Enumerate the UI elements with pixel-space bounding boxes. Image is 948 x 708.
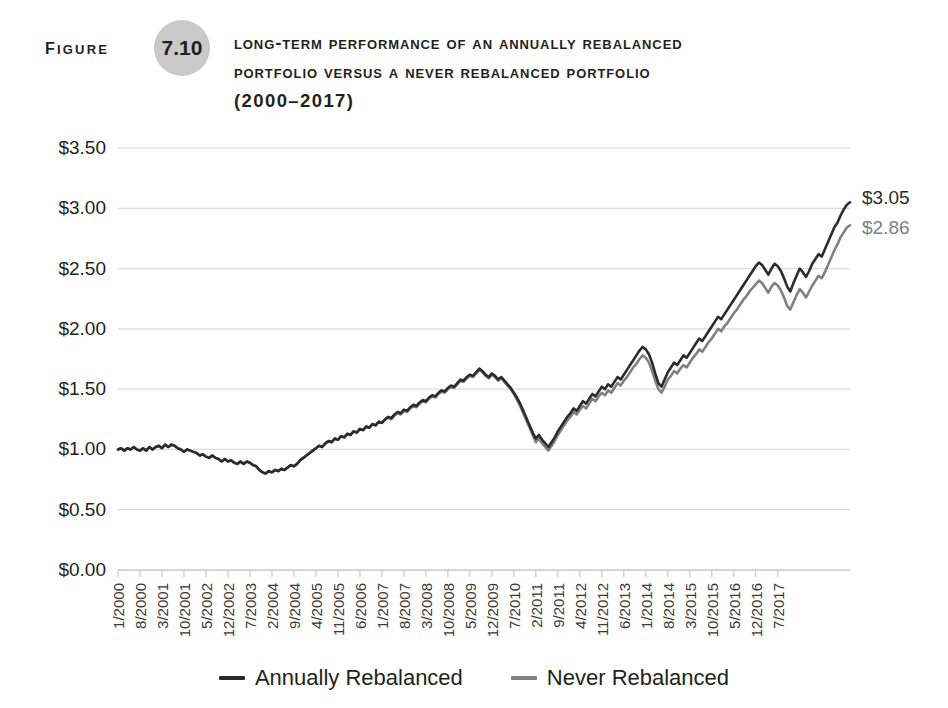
x-axis-tick-label: 10/2008	[440, 583, 457, 637]
chart-legend: Annually Rebalanced Never Rebalanced	[0, 655, 948, 701]
x-axis-tick-label: 12/2002	[220, 583, 237, 637]
y-axis-tick-label: $1.00	[58, 438, 106, 459]
x-axis-tick-label: 3/2008	[418, 583, 435, 629]
x-axis-tick-label: 8/2000	[132, 583, 149, 629]
figure-label: Figure	[45, 33, 109, 60]
y-axis-tick-label: $0.00	[58, 559, 106, 580]
y-axis-tick-label: $2.00	[58, 318, 106, 339]
x-axis-tick-label: 5/2002	[198, 583, 215, 629]
y-axis-tick-labels: $0.00$0.50$1.00$1.50$2.00$2.50$3.00$3.50	[58, 137, 106, 580]
data-series-group	[118, 202, 850, 473]
legend-label-annually-rebalanced: Annually Rebalanced	[255, 665, 463, 691]
x-axis-tick-label: 8/2014	[660, 583, 677, 629]
y-axis-tick-label: $2.50	[58, 258, 106, 279]
figure-title-line-2: Portfolio versus a Never Rebalanced Port…	[234, 57, 934, 86]
x-axis-tick-label: 10/2015	[704, 583, 721, 637]
legend-item-annually-rebalanced: Annually Rebalanced	[219, 665, 463, 691]
figure-title-line-3: (2000–2017)	[234, 86, 934, 115]
x-axis-tick-label: 9/2011	[550, 583, 567, 628]
y-axis-tick-label: $3.50	[58, 137, 106, 158]
endpoint-value-labels: $3.05$2.86	[862, 187, 910, 238]
figure-title-line-1: Long-Term Performance of an Annually Reb…	[234, 28, 934, 57]
x-axis-tick-labels: 1/20008/20003/200110/20015/200212/20027/…	[110, 583, 787, 637]
x-axis-tick-label: 2/2004	[264, 583, 281, 629]
x-axis-tick-label: 11/2005	[330, 583, 347, 636]
legend-item-never-rebalanced: Never Rebalanced	[511, 665, 729, 691]
x-axis-tick-label: 5/2009	[462, 583, 479, 629]
x-axis-tick-label: 1/2000	[110, 583, 127, 629]
x-axis-tick-label: 7/2003	[242, 583, 259, 629]
x-axis-tick-label: 6/2013	[616, 583, 633, 629]
x-axis-tick-label: 4/2005	[308, 583, 325, 629]
series-line-annually-rebalanced	[118, 202, 850, 473]
legend-swatch-annually-rebalanced	[219, 676, 245, 680]
y-axis-tick-label: $3.00	[58, 197, 106, 218]
x-axis-tick-label: 8/2007	[396, 583, 413, 629]
x-axis-tick-label: 1/2007	[374, 583, 391, 629]
x-axis-tick-label: 1/2014	[638, 583, 655, 629]
y-axis-tick-label: $1.50	[58, 378, 106, 399]
x-axis-tick-label: 2/2011	[528, 583, 545, 628]
chart-plot-area: $0.00$0.50$1.00$1.50$2.00$2.50$3.00$3.50…	[0, 128, 948, 648]
y-axis-tick-label: $0.50	[58, 499, 106, 520]
x-axis-tick-label: 9/2004	[286, 583, 303, 629]
figure-number: 7.10	[154, 20, 210, 76]
x-axis-tick-label: 4/2012	[572, 583, 589, 629]
x-axis-tick-label: 5/2016	[726, 583, 743, 629]
legend-label-never-rebalanced: Never Rebalanced	[547, 665, 729, 691]
line-chart: $0.00$0.50$1.00$1.50$2.00$2.50$3.00$3.50…	[0, 128, 948, 648]
x-axis-tick-label: 12/2009	[484, 583, 501, 637]
x-axis-tick-label: 10/2001	[176, 583, 193, 637]
x-axis-tick-label: 6/2006	[352, 583, 369, 629]
figure-title: Long-Term Performance of an Annually Reb…	[234, 28, 934, 115]
endpoint-label-never-rebalanced: $2.86	[862, 217, 910, 238]
x-axis-tick-label: 11/2012	[594, 583, 611, 636]
x-axis-tick-label: 12/2016	[748, 583, 765, 637]
legend-swatch-never-rebalanced	[511, 676, 537, 680]
x-axis-tick-label: 3/2001	[154, 583, 171, 629]
x-axis-tick-label: 3/2015	[682, 583, 699, 629]
gridlines	[118, 148, 850, 570]
endpoint-label-annually-rebalanced: $3.05	[862, 187, 910, 208]
series-line-never-rebalanced	[118, 225, 850, 473]
figure-header: Figure 7.10 Long-Term Performance of an …	[0, 0, 948, 128]
x-axis-tick-label: 7/2017	[770, 583, 787, 629]
x-axis-tick-label: 7/2010	[506, 583, 523, 629]
x-axis-tick-marks	[118, 570, 778, 577]
